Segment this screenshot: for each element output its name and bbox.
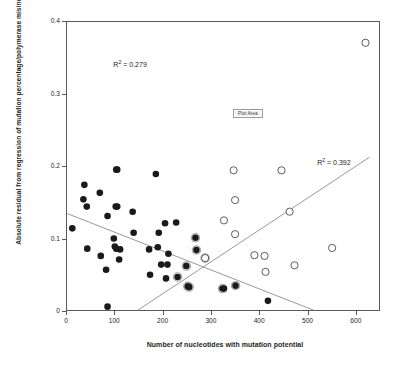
- data-point-filled: [80, 196, 87, 203]
- data-point-filled: [153, 171, 160, 178]
- r2-label-ascending: R2 = 0.392: [317, 157, 350, 166]
- data-point-open: [231, 196, 238, 203]
- x-tick-mark: [259, 311, 260, 315]
- data-point-filled: [221, 285, 228, 292]
- data-point-filled: [97, 253, 104, 260]
- data-point-filled: [173, 219, 180, 226]
- data-point-open: [261, 252, 268, 259]
- x-tick-label: 600: [341, 317, 371, 324]
- descending-trendline: [66, 213, 316, 311]
- ascending-trendline: [137, 157, 370, 311]
- x-tick-label: 400: [244, 317, 274, 324]
- y-tick-label: 0.3: [34, 90, 60, 97]
- data-point-open: [251, 252, 258, 259]
- x-tick-label: 200: [148, 317, 178, 324]
- data-point-filled: [104, 213, 111, 220]
- data-point-filled: [97, 190, 104, 197]
- x-axis-title: Number of nucleotides with mutation pote…: [60, 341, 390, 348]
- data-point-filled: [164, 261, 171, 268]
- data-point-filled: [103, 266, 110, 273]
- data-point-filled: [193, 247, 200, 254]
- data-point-open: [231, 231, 238, 238]
- x-tick-mark: [114, 311, 115, 315]
- data-point-filled: [183, 263, 190, 270]
- data-point-filled: [155, 229, 162, 236]
- x-tick-label: 300: [196, 317, 226, 324]
- data-point-open: [278, 167, 285, 174]
- data-point-filled: [117, 246, 124, 253]
- data-point-filled: [84, 245, 91, 252]
- data-point-filled: [112, 203, 119, 210]
- data-point-filled: [192, 234, 199, 241]
- data-point-open: [291, 262, 298, 269]
- x-tick-mark: [163, 311, 164, 315]
- y-tick-label: 0: [34, 307, 60, 314]
- data-point-filled: [129, 208, 136, 215]
- scatter-chart-figure: Absolute residual from regression of mut…: [0, 0, 395, 367]
- data-point-filled: [186, 284, 193, 291]
- data-point-filled: [162, 220, 169, 227]
- data-point-filled: [104, 303, 111, 310]
- data-point-filled: [232, 282, 239, 289]
- data-point-filled: [265, 298, 272, 305]
- data-point-open: [220, 217, 227, 224]
- data-point-filled: [81, 182, 88, 189]
- data-point-filled: [114, 166, 121, 173]
- y-tick-label: 0.4: [34, 17, 60, 24]
- data-point-filled: [130, 229, 137, 236]
- data-point-filled: [158, 261, 165, 268]
- data-point-open: [329, 244, 336, 251]
- x-tick-mark: [308, 311, 309, 315]
- y-tick-label: 0.1: [34, 235, 60, 242]
- data-point-filled: [111, 235, 118, 242]
- data-point-open: [362, 39, 369, 46]
- x-tick-mark: [66, 311, 67, 315]
- data-point-open: [230, 167, 237, 174]
- data-point-filled: [163, 275, 170, 282]
- data-point-filled: [174, 274, 181, 281]
- plot-area-tooltip[interactable]: Plot Area: [233, 109, 263, 118]
- data-point-filled: [83, 203, 90, 210]
- y-axis-title: Absolute residual from regression of mut…: [14, 0, 23, 255]
- x-tick-label: 100: [99, 317, 129, 324]
- data-point-open: [286, 208, 293, 215]
- data-point-open: [202, 254, 209, 261]
- data-point-filled: [165, 250, 172, 257]
- data-point-filled: [154, 244, 161, 251]
- r2-label-descending: R2 = 0.279: [113, 59, 146, 68]
- data-point-filled: [116, 256, 123, 263]
- y-tick-label: 0.2: [34, 162, 60, 169]
- x-tick-label: 0: [51, 317, 81, 324]
- x-tick-mark: [356, 311, 357, 315]
- data-point-filled: [147, 271, 154, 278]
- data-point-open: [262, 268, 269, 275]
- x-tick-label: 500: [293, 317, 323, 324]
- data-point-filled: [69, 225, 76, 232]
- data-point-filled: [146, 246, 153, 253]
- x-tick-mark: [211, 311, 212, 315]
